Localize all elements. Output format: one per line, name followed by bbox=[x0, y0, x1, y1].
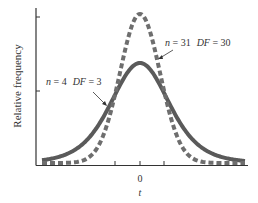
x-tick-label-zero: 0 bbox=[138, 173, 143, 184]
y-axis-label: Relative frequency bbox=[11, 44, 23, 128]
x-axis-label: t bbox=[139, 187, 142, 198]
annotation-df3: n = 4DF = 3 bbox=[46, 76, 102, 87]
arrowhead-df30 bbox=[158, 55, 163, 59]
annotation-df30: n = 31DF = 30 bbox=[165, 37, 231, 48]
t-distribution-chart: n = 31DF = 30 n = 4DF = 3 0 t Relative f… bbox=[0, 0, 258, 203]
arrow-df3 bbox=[93, 92, 105, 104]
